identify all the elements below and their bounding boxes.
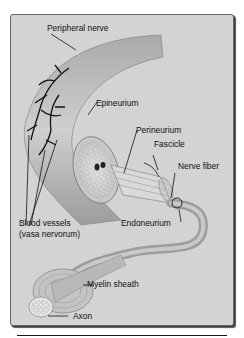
label-blood-vessels: Blood vessels bbox=[19, 218, 71, 228]
label-epineurium: Epineurium bbox=[96, 98, 138, 108]
label-endoneurium: Endoneurium bbox=[121, 218, 171, 228]
label-perineurium: Perineurium bbox=[136, 125, 181, 135]
label-vasa-nervorum: (vasa nervorum) bbox=[19, 229, 80, 239]
label-peripheral-nerve: Peripheral nerve bbox=[47, 23, 108, 33]
label-nerve-fiber: Nerve fiber bbox=[178, 161, 219, 171]
label-axon: Axon bbox=[73, 311, 92, 321]
caption-divider bbox=[17, 335, 227, 336]
diagram-frame: Peripheral nerve Epineurium Perineurium … bbox=[10, 14, 234, 326]
label-myelin-sheath: Myelin sheath bbox=[87, 279, 139, 289]
label-fascicle: Fascicle bbox=[154, 139, 185, 149]
